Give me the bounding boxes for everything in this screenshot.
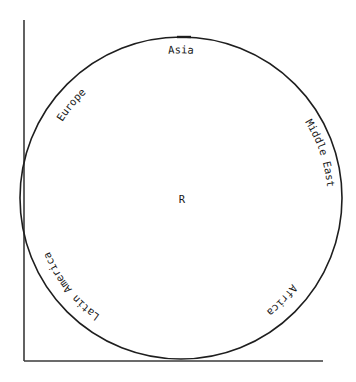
center-label: R [179,193,186,205]
region-label-asia: Asia [168,43,195,56]
region-label-middle-east: Middle East [303,117,337,188]
region-label-latin-america: Latin America [40,251,101,324]
region-circle-diagram: Asia Middle East Africa Latin America Eu… [0,0,356,382]
region-label-africa: Africa [265,283,300,319]
region-label-europe: Europe [54,86,88,124]
